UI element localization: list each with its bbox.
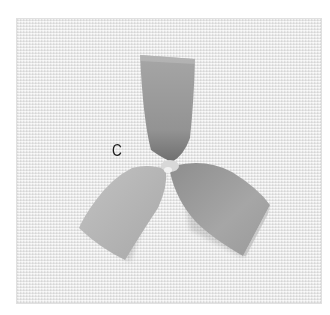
ribbon-photo (16, 18, 322, 304)
step-label: C (112, 141, 122, 161)
ribbon-bow-illustration (16, 18, 322, 304)
ribbon-left-loop (79, 166, 166, 260)
ribbon-top-loop (140, 55, 195, 162)
